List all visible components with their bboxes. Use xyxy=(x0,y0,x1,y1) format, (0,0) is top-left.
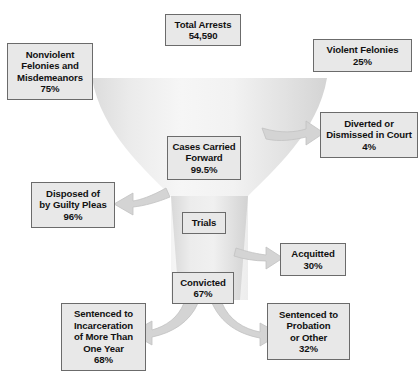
convicted-label: Convicted xyxy=(180,277,225,288)
convicted-value: 67% xyxy=(194,288,213,299)
total-arrests-box: Total Arrests 54,590 xyxy=(165,14,241,46)
nonviolent-felonies-box: Nonviolent Felonies and Misdemeanors 75% xyxy=(7,43,93,100)
acquitted-box: Acquitted 30% xyxy=(280,243,346,276)
diverted-line-2: Dismissed in Court xyxy=(326,129,412,140)
carried-value: 99.5% xyxy=(191,164,218,175)
incarceration-line-3: of More Than xyxy=(74,331,133,342)
nonviolent-line-2: Felonies and xyxy=(21,60,78,71)
diverted-dismissed-box: Diverted or Dismissed in Court 4% xyxy=(320,112,418,158)
convicted-box: Convicted 67% xyxy=(172,272,234,304)
incarceration-line-4: One Year xyxy=(83,343,124,354)
cases-carried-forward-box: Cases Carried Forward 99.5% xyxy=(167,136,241,180)
probation-line-1: Sentenced to xyxy=(279,309,338,320)
incarceration-line-1: Sentenced to xyxy=(74,308,133,319)
probation-line-3: or Other xyxy=(290,332,327,343)
sentenced-incarceration-box: Sentenced to Incarceration of More Than … xyxy=(61,303,146,371)
carried-line-1: Cases Carried xyxy=(172,141,235,152)
disposed-guilty-pleas-box: Disposed of by Guilty Pleas 96% xyxy=(31,182,115,228)
guilty-line-2: by Guilty Pleas xyxy=(39,199,106,210)
arrow-to-guilty-pleas xyxy=(114,188,170,215)
violent-value: 25% xyxy=(353,56,372,67)
nonviolent-line-3: Misdemeanors xyxy=(17,72,83,83)
total-arrests-label: Total Arrests xyxy=(175,19,232,30)
total-arrests-value: 54,590 xyxy=(189,30,218,41)
violent-label: Violent Felonies xyxy=(327,44,399,55)
guilty-line-1: Disposed of xyxy=(46,188,100,199)
guilty-value: 96% xyxy=(64,211,83,222)
acquitted-value: 30% xyxy=(304,260,323,271)
violent-felonies-box: Violent Felonies 25% xyxy=(313,39,412,72)
nonviolent-value: 75% xyxy=(41,83,60,94)
trials-label: Trials xyxy=(192,217,216,228)
acquitted-label: Acquitted xyxy=(291,248,334,259)
incarceration-value: 68% xyxy=(94,354,113,365)
nonviolent-line-1: Nonviolent xyxy=(26,49,75,60)
sentenced-probation-box: Sentenced to Probation or Other 32% xyxy=(267,303,350,360)
funnel-diagram: Total Arrests 54,590 Nonviolent Felonies… xyxy=(0,0,420,385)
incarceration-line-2: Incarceration xyxy=(74,320,133,331)
carried-line-2: Forward xyxy=(185,152,222,163)
probation-value: 32% xyxy=(299,343,318,354)
probation-line-2: Probation xyxy=(287,320,331,331)
diverted-value: 4% xyxy=(362,141,376,152)
trials-box: Trials xyxy=(182,212,226,234)
diverted-line-1: Diverted or xyxy=(344,118,394,129)
